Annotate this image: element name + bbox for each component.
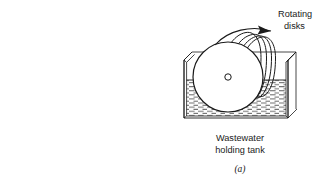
tank-left-flange-edge — [187, 54, 195, 62]
figure-caption: (a) — [234, 164, 245, 175]
shaft-hub — [225, 74, 231, 80]
tank-label-line1: Wastewater — [216, 133, 264, 143]
tank-left-flange — [184, 52, 192, 60]
rbc-diagram: Rotating disks Wastewater holding tank (… — [0, 0, 325, 182]
rotating-disks-label-line1: Rotating — [278, 9, 312, 19]
tank-right-flange-edge — [286, 54, 294, 62]
tank-bottom-right-perspective — [288, 109, 297, 118]
rotating-disks-label-line2: disks — [284, 21, 305, 31]
tank-label-line2: holding tank — [215, 145, 265, 155]
figure-root: Rotating disks Wastewater holding tank (… — [0, 0, 325, 182]
